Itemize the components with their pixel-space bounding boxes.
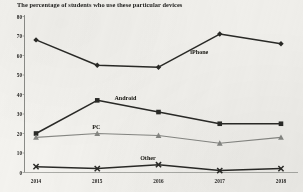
series-iphone — [33, 31, 283, 70]
data-point-marker — [95, 98, 100, 103]
data-point-marker — [156, 65, 161, 70]
series-label-other: Other — [140, 155, 156, 161]
series-label-iphone: iPhone — [190, 49, 208, 55]
data-point-marker — [217, 121, 222, 126]
data-point-marker — [33, 37, 38, 42]
data-point-marker — [95, 63, 100, 68]
series-pc — [33, 131, 284, 146]
plot-area — [0, 0, 303, 192]
series-label-pc: PC — [92, 124, 100, 130]
series-other — [33, 162, 283, 173]
x-axis-tick-label: 2014 — [31, 178, 41, 184]
series-line — [36, 100, 281, 133]
data-point-marker — [156, 110, 161, 115]
x-axis-tick-label: 2017 — [215, 178, 225, 184]
x-axis-tick-label: 2015 — [92, 178, 102, 184]
series-layer — [33, 31, 284, 173]
series-label-android: Android — [114, 95, 136, 101]
series-line — [36, 34, 281, 67]
series-android — [34, 98, 284, 136]
data-point-marker — [217, 31, 222, 36]
x-axis-tick-label: 2018 — [276, 178, 286, 184]
x-axis-tick-label: 2016 — [153, 178, 163, 184]
data-point-marker — [278, 41, 283, 46]
axis-lines — [23, 15, 299, 173]
data-point-marker — [279, 121, 284, 126]
chart-container: The percentage of students who use these… — [0, 0, 303, 192]
